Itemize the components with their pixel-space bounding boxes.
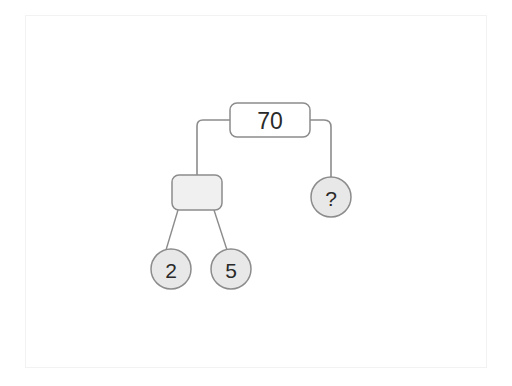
edge-root-to-unknown bbox=[310, 120, 331, 177]
edge-operator-box-to-leaf-right bbox=[214, 210, 227, 250]
node-root-label: 70 bbox=[257, 108, 283, 134]
node-operator-box[interactable] bbox=[172, 175, 222, 210]
tree-diagram: 70 ? 2 5 bbox=[0, 0, 512, 386]
node-unknown-label: ? bbox=[325, 187, 337, 210]
node-root[interactable]: 70 bbox=[230, 103, 310, 137]
edge-root-to-operator-box bbox=[197, 120, 230, 175]
node-operator-box-shape bbox=[172, 175, 222, 210]
node-leaf-right[interactable]: 5 bbox=[211, 249, 251, 289]
node-leaf-left[interactable]: 2 bbox=[151, 249, 191, 289]
edge-operator-box-to-leaf-left bbox=[166, 210, 178, 250]
diagram-canvas: 70 ? 2 5 bbox=[0, 0, 512, 386]
node-leaf-left-label: 2 bbox=[165, 259, 177, 282]
node-unknown[interactable]: ? bbox=[311, 177, 351, 217]
node-leaf-right-label: 5 bbox=[225, 259, 237, 282]
